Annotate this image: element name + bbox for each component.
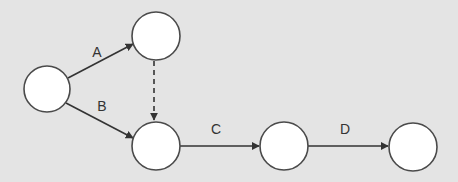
edge-label-b: B [97, 98, 106, 114]
node-1 [24, 66, 70, 112]
node-2 [132, 12, 180, 60]
edge-label-a: A [92, 44, 102, 60]
node-5 [389, 123, 437, 171]
network-diagram: A B C D [0, 0, 458, 182]
edge-label-c: C [211, 121, 221, 137]
node-4 [260, 122, 308, 170]
edge-label-d: D [340, 121, 350, 137]
node-3 [132, 122, 180, 170]
